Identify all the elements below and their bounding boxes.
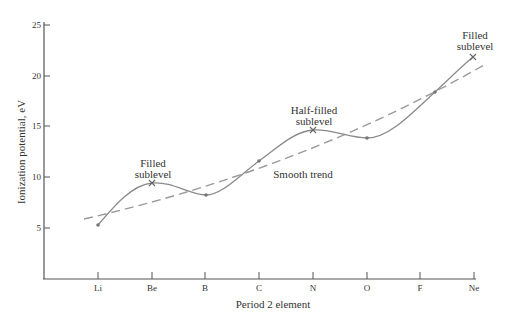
svg-text:Be: Be xyxy=(147,283,157,293)
svg-text:20: 20 xyxy=(32,71,42,81)
svg-text:sublevel: sublevel xyxy=(296,115,333,127)
svg-text:N: N xyxy=(310,283,317,293)
x-axis-title: Period 2 element xyxy=(236,298,311,310)
smooth-trend-label: Smooth trend xyxy=(273,168,333,180)
point-c xyxy=(257,159,261,163)
point-b xyxy=(204,193,208,197)
point-ne-x-icon xyxy=(470,54,476,60)
svg-text:F: F xyxy=(417,283,422,293)
svg-text:15: 15 xyxy=(32,121,42,131)
svg-text:5: 5 xyxy=(37,223,42,233)
svg-text:Li: Li xyxy=(94,283,102,293)
y-tick-labels: 25 20 15 10 5 xyxy=(32,20,42,233)
svg-text:O: O xyxy=(364,283,371,293)
x-tick-labels: Li Be B C N O F Ne xyxy=(94,283,479,293)
annotation-ne: Filled sublevel xyxy=(457,29,494,52)
svg-text:sublevel: sublevel xyxy=(135,168,172,180)
svg-text:Ne: Ne xyxy=(469,283,480,293)
svg-text:25: 25 xyxy=(32,20,42,30)
svg-text:C: C xyxy=(256,283,262,293)
point-li xyxy=(96,223,100,227)
svg-text:sublevel: sublevel xyxy=(457,40,494,52)
point-f xyxy=(433,90,437,94)
y-axis-title: Ionization potential, eV xyxy=(15,100,27,204)
point-o xyxy=(365,136,369,140)
x-ticks xyxy=(98,272,474,279)
svg-text:B: B xyxy=(202,283,208,293)
svg-text:10: 10 xyxy=(32,172,42,182)
ionization-chart: 25 20 15 10 5 Li Be B C N O F Ne Period … xyxy=(0,0,512,317)
ionization-curve xyxy=(98,57,473,225)
annotation-be: Filled sublevel xyxy=(135,157,172,180)
annotation-n: Half-filled sublevel xyxy=(291,104,338,127)
y-ticks xyxy=(44,25,50,228)
